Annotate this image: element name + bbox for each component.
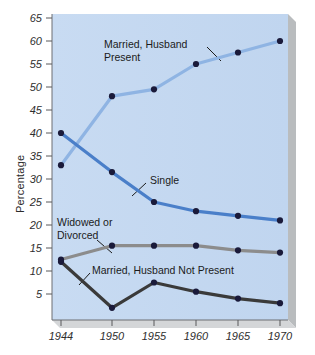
y-tick-label-25: 25 <box>20 196 42 208</box>
x-tick-label-1965: 1965 <box>218 330 258 342</box>
y-tick-label-55: 55 <box>20 58 42 70</box>
y-tick-label-20: 20 <box>20 219 42 231</box>
series-annotation-married-husband-not-present: Married, Husband Not Present <box>92 264 234 277</box>
data-point <box>151 199 157 205</box>
y-tick-label-30: 30 <box>20 173 42 185</box>
x-tick-label-1950: 1950 <box>92 330 132 342</box>
data-point <box>193 243 199 249</box>
data-point <box>277 217 283 223</box>
data-point <box>58 130 64 136</box>
y-tick-label-60: 60 <box>20 35 42 47</box>
data-point <box>193 208 199 214</box>
data-point <box>235 49 241 55</box>
series-annotation-widowed-or-divorced-line2: Divorced <box>57 229 98 242</box>
y-axis-ticks <box>46 18 52 294</box>
data-point <box>235 247 241 253</box>
panel-bottom-bevel <box>52 320 296 328</box>
data-point <box>58 162 64 168</box>
x-tick-label-1970: 1970 <box>260 330 300 342</box>
data-point <box>109 93 115 99</box>
data-point <box>151 279 157 285</box>
x-tick-label-1955: 1955 <box>134 330 174 342</box>
y-tick-label-50: 50 <box>20 81 42 93</box>
data-point <box>235 296 241 302</box>
y-tick-label-35: 35 <box>20 150 42 162</box>
y-tick-label-5: 5 <box>20 288 42 300</box>
data-point <box>58 259 64 265</box>
data-point <box>193 61 199 67</box>
series-annotation-widowed-or-divorced-line1: Widowed or <box>57 216 112 229</box>
y-tick-label-45: 45 <box>20 104 42 116</box>
data-point <box>277 38 283 44</box>
series-annotation-married-husband-present-line1: Married, Husband <box>104 38 187 51</box>
chart-figure: Percentage 5 10 15 20 25 30 35 40 45 50 … <box>0 0 315 355</box>
data-point <box>277 300 283 306</box>
series-annotation-single: Single <box>150 174 179 187</box>
data-point <box>151 86 157 92</box>
data-point <box>109 243 115 249</box>
y-tick-label-15: 15 <box>20 242 42 254</box>
data-point <box>109 169 115 175</box>
panel-right-bevel <box>288 14 296 328</box>
x-tick-label-1944: 1944 <box>41 330 81 342</box>
data-point <box>277 250 283 256</box>
series-annotation-married-husband-present-line2: Present <box>104 51 140 64</box>
data-point <box>151 243 157 249</box>
y-tick-label-65: 65 <box>20 12 42 24</box>
data-point <box>193 289 199 295</box>
y-tick-label-40: 40 <box>20 127 42 139</box>
data-point <box>109 305 115 311</box>
data-point <box>235 213 241 219</box>
y-tick-label-10: 10 <box>20 265 42 277</box>
x-tick-label-1960: 1960 <box>176 330 216 342</box>
